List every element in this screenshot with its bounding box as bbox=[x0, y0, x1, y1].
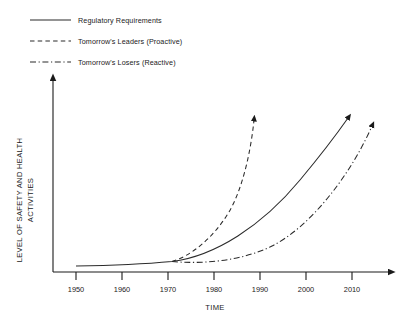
legend-item-regulatory-requirements: Regulatory Requirements bbox=[30, 16, 162, 25]
chart-legend: Regulatory Requirements Tomorrow's Leade… bbox=[30, 16, 182, 67]
x-tick-label: 1960 bbox=[114, 285, 130, 294]
x-tick-label: 1970 bbox=[160, 285, 176, 294]
x-tick-label: 1950 bbox=[68, 285, 84, 294]
chart-series-group bbox=[76, 118, 372, 266]
chart-axes: 1950 1960 1970 1980 1990 2000 2010 TIME … bbox=[15, 80, 389, 312]
x-tick-label: 1980 bbox=[206, 285, 222, 294]
x-tick-label: 1990 bbox=[252, 285, 268, 294]
legend-label-tomorrows-leaders: Tomorrow's Leaders (Proactive) bbox=[78, 37, 182, 46]
x-axis-tick-labels: 1950 1960 1970 1980 1990 2000 2010 bbox=[68, 285, 360, 294]
legend-item-tomorrows-leaders: Tomorrow's Leaders (Proactive) bbox=[30, 37, 182, 46]
legend-item-tomorrows-losers: Tomorrow's Losers (Reactive) bbox=[30, 58, 176, 67]
x-tick-label: 2010 bbox=[344, 285, 360, 294]
x-tick-label: 2000 bbox=[298, 285, 314, 294]
legend-label-tomorrows-losers: Tomorrow's Losers (Reactive) bbox=[78, 58, 176, 67]
series-line-tomorrows-leaders bbox=[172, 120, 254, 262]
y-axis-title-line1: LEVEL OF SAFETY AND HEALTH bbox=[15, 138, 24, 263]
legend-label-regulatory-requirements: Regulatory Requirements bbox=[78, 16, 162, 25]
x-axis-ticks bbox=[76, 272, 352, 280]
y-axis-title-line2: ACTIVITIES bbox=[26, 178, 35, 222]
series-line-tomorrows-losers bbox=[172, 126, 372, 262]
series-line-regulatory-requirements bbox=[76, 118, 348, 266]
chart-figure: Regulatory Requirements Tomorrow's Leade… bbox=[0, 0, 413, 329]
chart-canvas: Regulatory Requirements Tomorrow's Leade… bbox=[0, 0, 413, 329]
x-axis-title: TIME bbox=[205, 303, 224, 312]
